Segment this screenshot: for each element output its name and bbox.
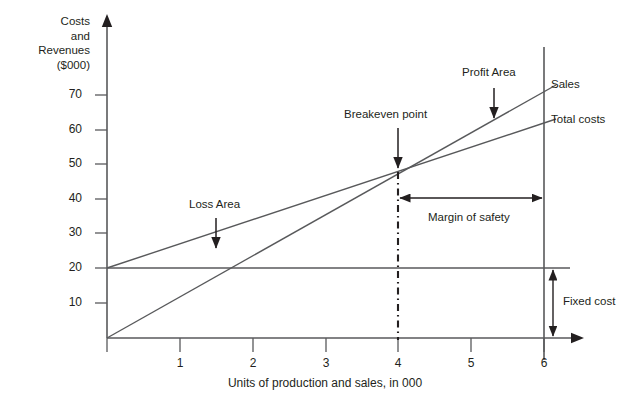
- x-tick-label-5: 5: [461, 357, 481, 370]
- y-tick-label-60: 60: [48, 123, 82, 136]
- y-axis-title-line-1: Costs: [20, 14, 90, 29]
- x-axis-title: Units of production and sales, in 000: [155, 377, 495, 390]
- x-tick-label-6: 6: [534, 357, 554, 370]
- y-axis-title-line-3: Revenues: [20, 43, 90, 58]
- total-costs-line: [107, 119, 556, 268]
- x-axis: [107, 333, 584, 343]
- y-tick-label-10: 10: [48, 296, 82, 309]
- x-tick-marks: [107, 338, 544, 352]
- annotation-loss-area: Loss Area: [189, 198, 240, 211]
- x-tick-label-4: 4: [388, 357, 408, 370]
- y-tick-marks: [95, 95, 107, 303]
- annotation-fixed-cost: Fixed cost: [563, 295, 615, 308]
- annotation-breakeven-point: Breakeven point: [344, 108, 427, 121]
- y-tick-label-30: 30: [48, 226, 82, 239]
- x-tick-label-3: 3: [316, 357, 336, 370]
- y-tick-label-50: 50: [48, 157, 82, 170]
- series-label-total-costs: Total costs: [551, 113, 605, 126]
- y-tick-label-70: 70: [48, 88, 82, 101]
- x-tick-label-1: 1: [170, 357, 190, 370]
- y-axis-title: Costs and Revenues ($000): [20, 14, 90, 72]
- y-tick-label-20: 20: [48, 261, 82, 274]
- series-label-sales: Sales: [551, 78, 580, 91]
- y-axis-title-line-4: ($000): [20, 58, 90, 73]
- y-axis: [102, 14, 112, 338]
- breakeven-chart: Costs and Revenues ($000) 70 60 50 40 30…: [0, 0, 629, 407]
- annotation-margin-of-safety: Margin of safety: [428, 211, 510, 224]
- y-tick-label-40: 40: [48, 192, 82, 205]
- annotation-profit-area: Profit Area: [462, 66, 516, 79]
- x-tick-label-2: 2: [243, 357, 263, 370]
- chart-canvas: [0, 0, 629, 407]
- y-axis-title-line-2: and: [20, 29, 90, 44]
